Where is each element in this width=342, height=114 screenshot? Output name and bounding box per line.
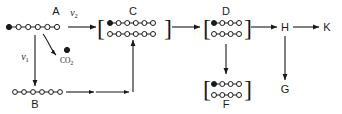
bracket-right: ] [164,15,172,41]
bracket-left: [ [203,76,211,102]
node-h-label: H [281,21,289,33]
node-h: H [281,21,289,33]
atom-open [58,90,63,95]
atom-filled [64,47,69,52]
atom-open [228,82,233,87]
edge-a-to-co2-curved [43,34,56,55]
atom-open [237,93,242,98]
atom-open [220,21,225,26]
node-c: C [ ] [97,5,172,41]
node-d: D [ ] [203,5,252,41]
node-k-label: K [323,21,331,33]
bracket-right: ] [244,76,252,102]
svg-text:v1: v1 [21,51,29,63]
atom-open [228,21,233,26]
atom-open [142,32,147,37]
edge-b-to-c-riser [66,40,133,92]
atom-open [133,32,138,37]
atom-open [237,82,242,87]
atom-open [220,32,225,37]
atom-filled [6,24,11,29]
svg-text:CO2: CO2 [60,56,73,66]
atom-open [133,21,138,26]
node-a: A [6,5,60,30]
atom-open [54,24,59,29]
atom-open [49,90,54,95]
node-d-chain-top [212,21,242,26]
atom-open [237,32,242,37]
atom-open [22,90,27,95]
node-b-label: B [31,98,38,110]
atom-open [220,82,225,87]
rate-label-v1-subscript: 1 [26,56,29,63]
byproduct-co2: CO2 [60,47,73,65]
atom-filled [212,21,217,26]
node-b: B [13,90,63,110]
atom-open [45,24,50,29]
svg-text:v2: v2 [70,7,78,19]
atom-filled [108,21,113,26]
co2-label-subscript: 2 [70,60,73,66]
node-a-chain [6,24,59,29]
atom-open [142,21,147,26]
atom-open [125,32,130,37]
node-a-label: A [52,5,60,17]
node-f-label: F [223,98,230,110]
atom-open [35,24,40,29]
node-b-chain [13,90,63,95]
atom-open [125,21,130,26]
atom-open [16,24,21,29]
bracket-left: [ [97,15,105,41]
node-c-label: C [129,5,137,17]
rate-label-v2-subscript: 2 [75,12,78,19]
node-g: G [281,83,290,95]
bracket-right: ] [244,15,252,41]
atom-open [212,32,217,37]
atom-open [13,90,18,95]
node-f-chain-top [212,82,242,87]
atom-open [108,32,113,37]
atom-open [151,21,156,26]
rate-label-v1: v1 [21,51,29,63]
node-d-label: D [222,5,230,17]
atom-open [228,32,233,37]
atom-open [212,93,217,98]
node-d-chain-bottom [212,32,242,37]
bracket-left: [ [203,15,211,41]
atom-filled [212,82,217,87]
diagram-canvas: A B [0,0,342,114]
node-f: F [ ] [203,76,252,110]
node-k: K [323,21,331,33]
atom-open [40,90,45,95]
reaction-pathway-diagram: A B [0,0,342,114]
atom-open [116,21,121,26]
rate-label-v2: v2 [70,7,78,19]
co2-label-text: CO [60,56,71,65]
atom-open [220,93,225,98]
atom-open [31,90,36,95]
atom-open [228,93,233,98]
node-c-chain-bottom [108,32,156,37]
atom-open [237,21,242,26]
node-f-chain-bottom [212,93,242,98]
atom-open [151,32,156,37]
atom-open [116,32,121,37]
node-g-label: G [281,83,290,95]
node-c-chain-top [108,21,156,26]
atom-open [26,24,31,29]
